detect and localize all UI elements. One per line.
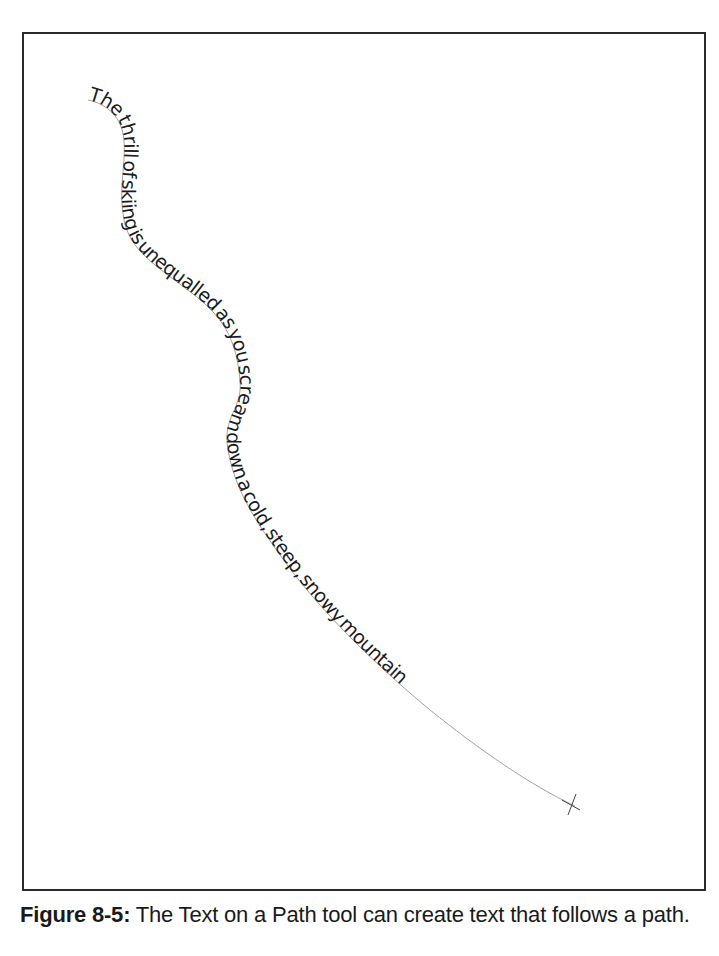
text-guide-path bbox=[88, 100, 575, 806]
caption-label: Figure 8-5: bbox=[20, 902, 130, 927]
path-text-content: The thrill of skiing is unequalled as yo… bbox=[86, 82, 412, 687]
figure-caption: Figure 8-5: The Text on a Path tool can … bbox=[20, 902, 710, 928]
figure-canvas: The thrill of skiing is unequalled as yo… bbox=[0, 0, 719, 956]
path-text: The thrill of skiing is unequalled as yo… bbox=[86, 82, 412, 687]
caption-text: The Text on a Path tool can create text … bbox=[130, 902, 689, 927]
